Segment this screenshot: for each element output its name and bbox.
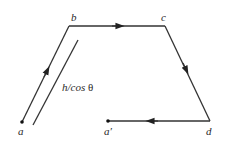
label-c: c — [161, 11, 166, 23]
theta-symbol: θ — [88, 81, 93, 93]
label-d: d — [206, 125, 212, 137]
arrow-icon — [183, 63, 187, 71]
segment-a-b — [22, 26, 69, 122]
length-label-main: h/cos — [62, 81, 88, 93]
point-a-prime-dot — [106, 119, 110, 123]
label-b: b — [71, 11, 77, 23]
length-label: h/cos θ — [62, 81, 93, 93]
label-a: a — [18, 125, 24, 137]
arrow-icon — [44, 70, 48, 77]
label-a-prime: a′ — [104, 125, 113, 137]
diagram-svg: b c a a′ d h/cos θ — [0, 0, 226, 146]
point-a-dot — [20, 120, 24, 124]
path-diagram: b c a a′ d h/cos θ — [0, 0, 226, 146]
segment-c-d — [165, 26, 210, 121]
